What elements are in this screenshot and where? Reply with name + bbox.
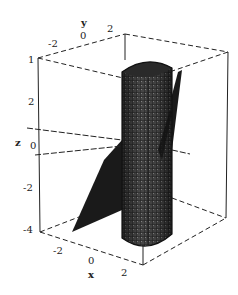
z-tick-label: 0 xyxy=(30,141,36,151)
cylinder-surface xyxy=(122,62,172,246)
y-tick-label: 0 xyxy=(80,31,86,41)
y-axis-title: y xyxy=(81,18,87,28)
y-tick-label: -2 xyxy=(48,39,58,49)
x-axis-title: x xyxy=(88,270,94,280)
z-tick-label: -2 xyxy=(23,183,33,193)
x-tick-label: 2 xyxy=(121,268,127,278)
y-tick-label: 2 xyxy=(107,24,113,34)
z-tick-label: 2 xyxy=(28,97,34,107)
x-tick-label: -2 xyxy=(53,246,63,256)
x-tick-label: 0 xyxy=(88,256,94,266)
z-axis-title: z xyxy=(15,138,21,148)
z-tick-label: 1 xyxy=(28,55,34,65)
z-tick-label: -4 xyxy=(23,225,33,235)
